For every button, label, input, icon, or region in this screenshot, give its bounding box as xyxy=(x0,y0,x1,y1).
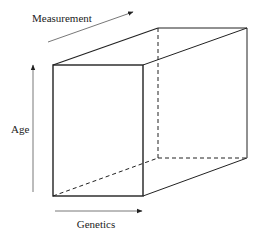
top-left-depth-edge xyxy=(53,28,158,65)
bottom-right-depth-edge xyxy=(143,158,247,196)
hidden-edge-bottom-depth xyxy=(53,158,158,196)
age-axis: Age xyxy=(11,65,33,192)
front-face xyxy=(53,65,143,196)
measurement-axis: Measurement xyxy=(32,12,133,42)
cube-diagram: Measurement Age Genetics xyxy=(0,0,262,233)
cube xyxy=(53,28,247,196)
genetics-axis: Genetics xyxy=(55,211,142,230)
top-right-depth-edge xyxy=(143,28,247,65)
age-label: Age xyxy=(11,123,29,135)
genetics-label: Genetics xyxy=(77,218,115,230)
measurement-label: Measurement xyxy=(32,12,92,24)
